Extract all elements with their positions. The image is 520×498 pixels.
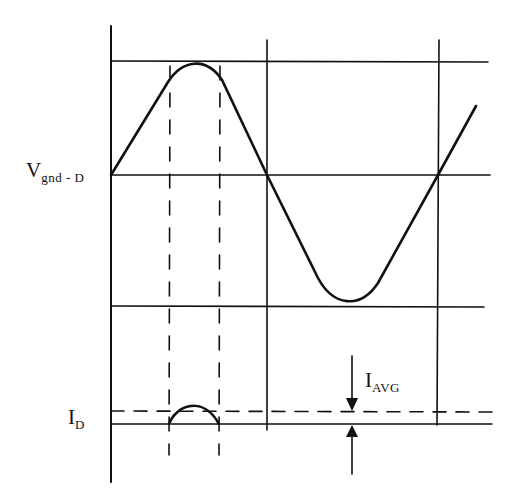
- waveform-diagram: Vgnd - D ID IAVG: [0, 0, 520, 498]
- voltage-label-subscript: gnd - D: [41, 170, 84, 185]
- average-current-label: IAVG: [365, 368, 400, 396]
- current-average-line: [111, 411, 492, 412]
- current-pulse: [169, 406, 219, 424]
- grid-line-bottom: [111, 306, 484, 307]
- current-label-subscript: D: [75, 417, 85, 432]
- voltage-label: Vgnd - D: [26, 158, 84, 186]
- arrow-up-icon: [346, 425, 358, 437]
- current-label: ID: [68, 405, 85, 433]
- dashed-marker-left: [169, 66, 170, 455]
- voltage-waveform: [111, 64, 476, 302]
- grid-line-top: [111, 61, 488, 62]
- arrow-down-icon: [346, 398, 358, 411]
- grid-vertical-2: [437, 40, 439, 425]
- average-current-subscript: AVG: [372, 380, 400, 395]
- dashed-marker-right: [219, 66, 220, 455]
